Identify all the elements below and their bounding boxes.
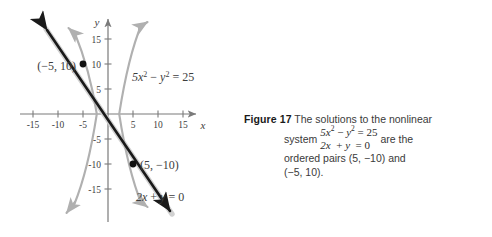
hyperbola-arrow-top-left [69, 28, 76, 34]
caption-line-4: (−5, 10). [284, 165, 492, 179]
y-tick-label--15: -15 [88, 185, 101, 195]
figure-number-label: Figure 17 [244, 113, 292, 125]
x-tick-label-5: 5 [131, 120, 136, 130]
figure-container: -15 -10 -5 5 10 15 15 10 5 -5 -10 -15 x … [0, 0, 492, 237]
caption-text-part-2: system [284, 132, 317, 146]
hyperbola-arrow-bottom-left [67, 202, 76, 213]
y-tick-label--10: -10 [88, 160, 101, 170]
figure-caption: Figure 17 The solutions to the nonlinear… [244, 112, 492, 179]
x-tick-label-10: 10 [153, 120, 163, 130]
coordinate-plane-graph: -15 -10 -5 5 10 15 15 10 5 -5 -10 -15 x … [0, 0, 240, 237]
y-tick-label-5: 5 [96, 85, 101, 95]
point-label-minus5-10: (−5, 10) [37, 59, 76, 73]
hyperbola-equation-label: 5x2 − y2 = 25 [132, 70, 194, 84]
caption-line-2: system 5x2 − y2 = 25 2x + y = 0 are the [284, 126, 492, 151]
caption-text-part-1: The solutions to the nonlinear [294, 113, 432, 125]
y-axis-label: y [94, 16, 100, 28]
point-marker-minus5-10 [80, 61, 87, 68]
hyperbola-left-branch [74, 32, 96, 204]
x-tick-label--15: -15 [27, 120, 40, 130]
y-tick-label-15: 15 [92, 35, 102, 45]
caption-line-3: ordered pairs (5, −10) and [284, 151, 492, 165]
system-equation-2: 2x + y = 0 [320, 139, 377, 152]
y-tick-label-10: 10 [92, 60, 102, 70]
graph-panel: -15 -10 -5 5 10 15 15 10 5 -5 -10 -15 x … [0, 0, 240, 237]
x-tick-label-15: 15 [178, 120, 188, 130]
system-of-equations: 5x2 − y2 = 25 2x + y = 0 [320, 126, 377, 151]
y-tick-label--5: -5 [93, 135, 101, 145]
point-label-5-minus10: (5, −10) [140, 158, 179, 172]
x-tick-label--5: -5 [79, 120, 87, 130]
line-equation-label: 2x + y = 0 [136, 190, 184, 204]
x-tick-label--10: -10 [52, 120, 65, 130]
caption-text-part-3: are the [380, 132, 413, 146]
x-axis-label: x [200, 119, 206, 131]
point-marker-5-minus10 [130, 161, 137, 168]
system-equation-1: 5x2 − y2 = 25 [320, 126, 377, 139]
caption-line-1: Figure 17 The solutions to the nonlinear [244, 112, 492, 126]
